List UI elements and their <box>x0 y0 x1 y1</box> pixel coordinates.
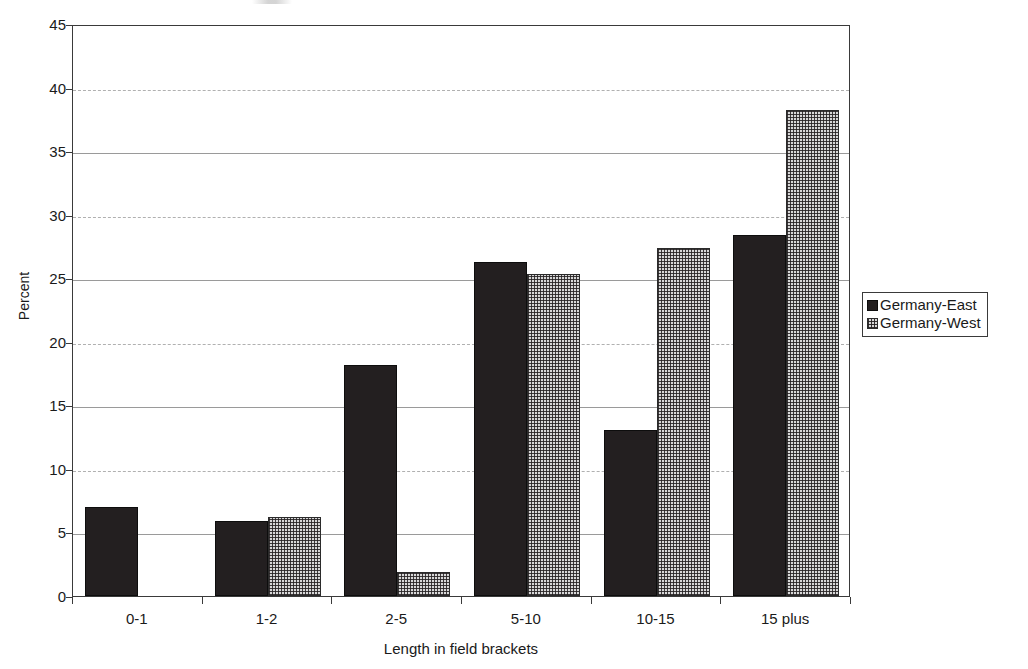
y-tick-label: 40 <box>10 81 66 96</box>
x-axis-title: Length in field brackets <box>72 640 850 657</box>
y-tick-label: 35 <box>10 144 66 159</box>
legend-swatch-germany-west-icon <box>867 318 878 329</box>
y-axis-title: Percent <box>16 236 32 356</box>
x-tick-mark <box>331 597 332 604</box>
bar <box>215 521 268 596</box>
y-tick-label: 30 <box>10 208 66 223</box>
x-tick-mark <box>720 597 721 604</box>
bar <box>85 507 138 596</box>
bar <box>733 235 786 596</box>
legend-label-germany-east: Germany-East <box>880 296 977 314</box>
legend-item[interactable]: Germany-West <box>867 314 981 332</box>
legend-swatch-germany-east-icon <box>867 300 878 311</box>
legend: Germany-East Germany-West <box>862 292 988 337</box>
y-tick-label: 0 <box>10 589 66 604</box>
y-tick-label: 10 <box>10 462 66 477</box>
gridline <box>73 153 849 154</box>
x-tick-label: 0-1 <box>72 610 202 627</box>
bar-chart: 051015202530354045 Percent 0-11-22-55-10… <box>0 0 1028 669</box>
x-tick-mark <box>850 597 851 604</box>
plot-area <box>72 25 850 597</box>
y-tick-label: 5 <box>10 525 66 540</box>
bar <box>786 110 839 596</box>
x-tick-label: 10-15 <box>591 610 721 627</box>
bar <box>474 262 527 596</box>
y-axis: 051015202530354045 <box>0 0 66 669</box>
x-tick-label: 15 plus <box>720 610 850 627</box>
x-tick-mark <box>72 597 73 604</box>
legend-item[interactable]: Germany-East <box>867 296 981 314</box>
bar <box>604 430 657 597</box>
gridline <box>73 217 849 218</box>
x-tick-label: 1-2 <box>202 610 332 627</box>
bar <box>344 365 397 596</box>
x-tick-mark <box>202 597 203 604</box>
x-tick-mark <box>591 597 592 604</box>
bar <box>268 517 321 596</box>
gridline <box>73 90 849 91</box>
legend-label-germany-west: Germany-West <box>880 314 981 332</box>
x-tick-mark <box>461 597 462 604</box>
bar <box>657 248 710 596</box>
y-tick-label: 15 <box>10 398 66 413</box>
y-tick-label: 45 <box>10 17 66 32</box>
title-artifact <box>252 0 292 4</box>
bar <box>527 274 580 596</box>
x-tick-label: 2-5 <box>331 610 461 627</box>
x-tick-label: 5-10 <box>461 610 591 627</box>
bar <box>397 572 450 596</box>
